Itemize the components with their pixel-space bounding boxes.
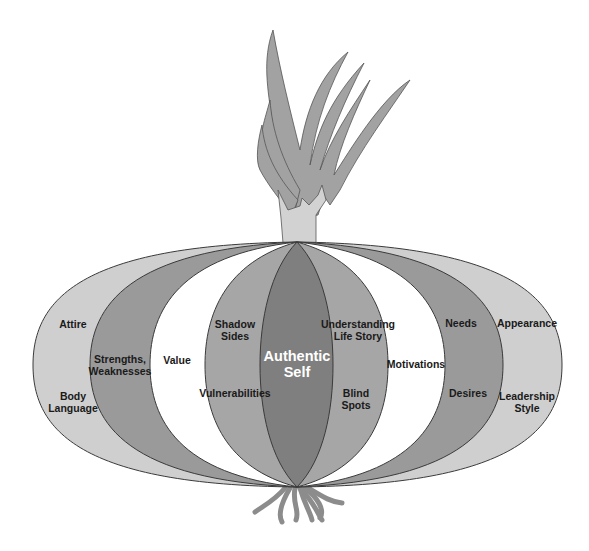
label-vulnerabilities-text: Vulnerabilities [199, 387, 270, 399]
label-motivations: Motivations [387, 358, 445, 370]
label-body-language-line2: Language [48, 402, 98, 414]
label-understanding-line1: Understanding [321, 318, 395, 330]
onion-leaves-icon [257, 30, 410, 220]
label-blind-spots-line1: Blind [341, 387, 370, 399]
label-leadership-style-line1: Leadership [499, 390, 555, 402]
label-shadow-sides: Shadow Sides [215, 318, 255, 342]
label-blind-spots-line2: Spots [341, 399, 370, 411]
label-needs: Needs [445, 317, 477, 329]
label-strengths-weaknesses: Strengths, Weaknesses [89, 353, 152, 377]
label-appearance-text: Appearance [497, 317, 557, 329]
core-label: Authentic Self [264, 348, 331, 380]
label-motivations-text: Motivations [387, 358, 445, 370]
label-attire-text: Attire [59, 318, 86, 330]
label-value-text: Value [163, 354, 190, 366]
label-understanding-line2: Life Story [321, 330, 395, 342]
label-desires-text: Desires [449, 387, 487, 399]
label-understanding-life-story: Understanding Life Story [321, 318, 395, 342]
label-leadership-style: Leadership Style [499, 390, 555, 414]
label-desires: Desires [449, 387, 487, 399]
label-appearance: Appearance [497, 317, 557, 329]
label-vulnerabilities: Vulnerabilities [199, 387, 270, 399]
onion-diagram: Authentic Self Attire Body Language Appe… [0, 0, 589, 551]
label-shadow-sides-line1: Shadow [215, 318, 255, 330]
label-body-language-line1: Body [48, 390, 98, 402]
label-value: Value [163, 354, 190, 366]
onion-roots-icon [255, 488, 342, 522]
label-blind-spots: Blind Spots [341, 387, 370, 411]
core-label-line2: Self [264, 364, 331, 380]
label-leadership-style-line2: Style [499, 402, 555, 414]
label-attire: Attire [59, 318, 86, 330]
label-strengths-line2: Weaknesses [89, 365, 152, 377]
label-body-language: Body Language [48, 390, 98, 414]
onion-graphic [0, 0, 589, 551]
label-needs-text: Needs [445, 317, 477, 329]
label-shadow-sides-line2: Sides [215, 330, 255, 342]
label-strengths-line1: Strengths, [89, 353, 152, 365]
core-label-line1: Authentic [264, 348, 331, 364]
